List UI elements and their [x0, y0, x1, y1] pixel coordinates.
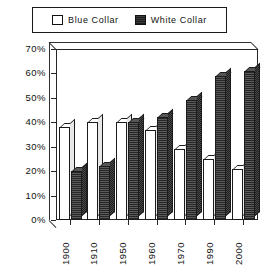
legend-entry-blue-collar: Blue Collar: [52, 15, 119, 25]
legend-label-white-collar: White Collar: [151, 16, 207, 25]
plot-top-wall: [49, 42, 251, 49]
legend-swatch-icon-blue-collar: [52, 15, 63, 25]
y-axis-tick-label: 70%: [0, 44, 46, 54]
bar-chart: Blue Collar White Collar 70%60%50%40%30%…: [0, 0, 272, 269]
y-axis-tick: [51, 220, 56, 221]
y-axis-tick-label: 50%: [0, 93, 46, 103]
x-axis-tick-label: 1910: [89, 242, 99, 265]
x-axis-tick: [128, 220, 129, 225]
x-axis-tick: [157, 220, 158, 225]
x-axis-tick-label: 1900: [61, 242, 71, 265]
plot-corner-bottom-left: [49, 220, 57, 228]
y-axis-tick-label: 0%: [0, 215, 46, 225]
x-axis-tick-label: 1950: [118, 242, 128, 265]
x-axis-tick: [70, 220, 71, 225]
x-axis-tick: [99, 220, 100, 225]
legend-swatch-icon-white-collar: [135, 15, 146, 25]
legend-entry-white-collar: White Collar: [135, 15, 207, 25]
y-axis-tick-label: 20%: [0, 166, 46, 176]
x-axis-tick-label: 1970: [176, 242, 186, 265]
x-axis-tick: [214, 220, 215, 225]
y-axis-tick-label: 10%: [0, 191, 46, 201]
plot-area: [56, 49, 258, 220]
x-axis-tick-label: 2000: [234, 242, 244, 265]
x-axis-tick-label: 1960: [147, 242, 157, 265]
y-axis-tick-label: 60%: [0, 68, 46, 78]
y-axis-tick-label: 30%: [0, 142, 46, 152]
x-axis-tick-label: 1990: [205, 242, 215, 265]
x-axis-tick: [185, 220, 186, 225]
legend-label-blue-collar: Blue Collar: [68, 16, 119, 25]
x-axis-tick: [243, 220, 244, 225]
plot-left-wall: [49, 42, 56, 220]
chart-legend: Blue Collar White Collar: [32, 7, 227, 33]
y-axis-tick-label: 40%: [0, 117, 46, 127]
